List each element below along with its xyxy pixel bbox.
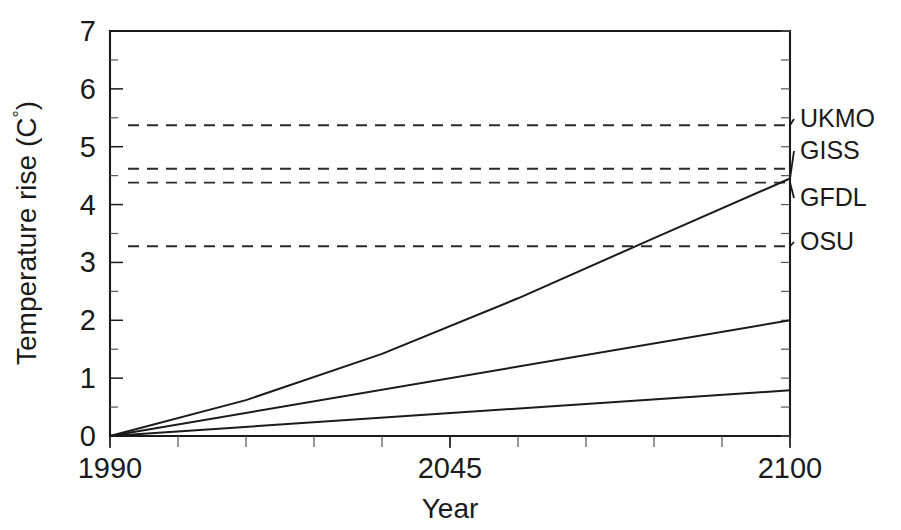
y-tick-label: 4 — [80, 189, 96, 221]
x-axis-ticks — [110, 436, 790, 448]
degree-symbol: ° — [10, 110, 30, 117]
y-tick-labels: 01234567 — [80, 15, 96, 452]
reference-lines-group — [128, 125, 790, 246]
y-tick-label: 2 — [80, 304, 96, 336]
legend-label-gfdl: GFDL — [800, 183, 867, 211]
svg-text:Temperature rise (C°): Temperature rise (C°) — [10, 101, 42, 365]
series-line-gfdl — [110, 320, 790, 436]
y-axis-title-close: ) — [11, 101, 42, 110]
legend-label-giss: GISS — [800, 136, 860, 164]
legend-group: UKMOGISSGFDLOSU — [790, 104, 875, 255]
legend-label-ukmo: UKMO — [800, 104, 875, 132]
temperature-rise-line-chart: UKMOGISSGFDLOSU 01234567 199020452100 Te… — [0, 0, 901, 530]
y-tick-label: 7 — [80, 15, 96, 47]
y-axis-title-text: Temperature rise (C — [11, 118, 42, 365]
x-tick-labels: 199020452100 — [78, 452, 823, 484]
x-tick-label: 1990 — [78, 452, 143, 484]
y-axis-ticks — [110, 31, 790, 436]
x-axis-title-text: Year — [422, 493, 479, 524]
y-tick-label: 1 — [80, 362, 96, 394]
x-tick-label: 2045 — [418, 452, 483, 484]
series-line-osu — [110, 390, 790, 436]
legend-label-osu: OSU — [800, 227, 854, 255]
chart-figure: UKMOGISSGFDLOSU 01234567 199020452100 Te… — [0, 0, 901, 530]
y-tick-label: 0 — [80, 420, 96, 452]
x-tick-label: 2100 — [758, 452, 823, 484]
x-axis-title: Year — [422, 493, 479, 524]
series-group — [110, 179, 790, 436]
y-tick-label: 3 — [80, 246, 96, 278]
plot-frame — [110, 31, 790, 436]
y-axis-title: Temperature rise (C°) — [10, 101, 42, 365]
y-tick-label: 6 — [80, 73, 96, 105]
y-tick-label: 5 — [80, 131, 96, 163]
